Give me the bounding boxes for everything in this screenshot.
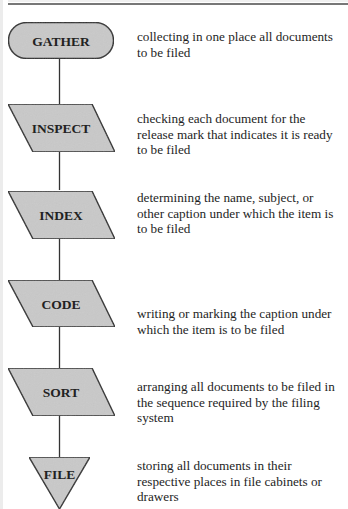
step-label: GATHER (32, 34, 90, 49)
step-description-inspect: checking each document for the release m… (137, 111, 342, 158)
step-description-file: storing all documents in their respectiv… (137, 458, 342, 505)
step-description-sort: arranging all documents to be filed in t… (137, 379, 342, 426)
step-description-index: determining the name, subject, or other … (137, 190, 342, 237)
step-description-code: writing or marking the caption under whi… (137, 306, 342, 337)
flowchart: GATHER INSPECT INDEX CODE SORT FILE (0, 0, 348, 509)
step-gather: GATHER (9, 23, 114, 59)
step-file: FILE (29, 457, 90, 509)
step-description-gather: collecting in one place all documents to… (137, 29, 342, 60)
step-code: CODE (8, 280, 115, 327)
step-label: SORT (43, 385, 79, 400)
step-inspect: INSPECT (8, 104, 115, 152)
step-index: INDEX (8, 191, 115, 239)
step-label: INSPECT (32, 121, 91, 136)
step-label: INDEX (39, 208, 83, 223)
merge-triangle-shape (29, 457, 90, 509)
step-sort: SORT (8, 368, 115, 416)
step-label: CODE (41, 297, 80, 312)
step-label: FILE (44, 467, 76, 482)
